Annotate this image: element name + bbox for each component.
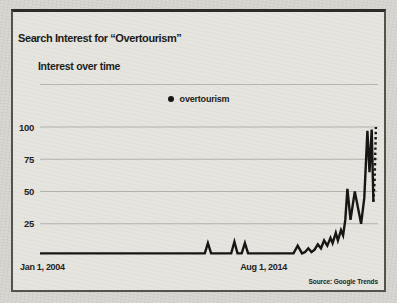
y-tick-label-100: 100	[19, 122, 34, 133]
y-tick-label-50: 50	[24, 186, 34, 197]
chart-svg: 100755025Jan 1, 2004Aug 1, 2014	[13, 12, 384, 291]
trend-line-partial-dotted	[373, 127, 376, 202]
y-tick-label-75: 75	[24, 154, 35, 165]
source-credit: Source: Google Trends	[309, 278, 378, 285]
x-tick-label-1: Aug 1, 2014	[240, 262, 287, 272]
y-tick-label-25: 25	[24, 218, 35, 229]
newsprint-background: Search Interest for “Overtourism” Intere…	[0, 0, 397, 303]
trends-chart-card: Search Interest for “Overtourism” Intere…	[11, 9, 386, 292]
x-tick-label-0: Jan 1, 2004	[20, 262, 65, 272]
